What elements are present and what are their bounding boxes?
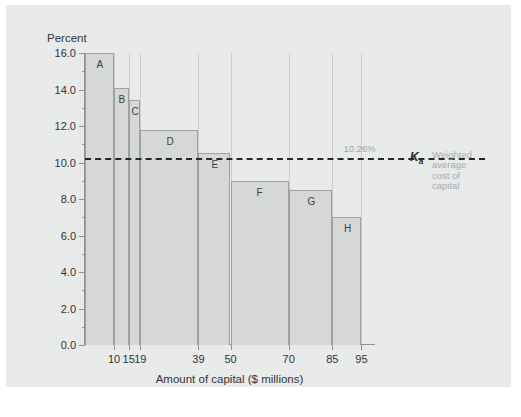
y-axis-tick-label: 4.0: [61, 266, 76, 278]
x-axis-tick-label: 10: [108, 353, 120, 365]
x-axis-tick-label: 50: [224, 353, 236, 365]
wacc-reference-line: [85, 158, 485, 160]
y-axis-tick-label: 14.0: [55, 84, 76, 96]
bar-label-e: E: [211, 159, 218, 170]
bar-h: [332, 217, 361, 345]
y-axis-title: Percent: [47, 32, 87, 44]
x-axis-tick-label: 19: [134, 353, 146, 365]
bar-b: [114, 88, 129, 345]
bar-a: [85, 53, 114, 345]
y-axis-tick-label: 6.0: [61, 230, 76, 242]
x-axis-tick-label: 15: [123, 353, 135, 365]
bar-label-f: F: [257, 187, 263, 198]
bar-label-b: B: [118, 94, 125, 105]
bar-label-h: H: [344, 223, 351, 234]
bar-f: [231, 181, 289, 345]
bar-label-c: C: [131, 106, 138, 117]
x-axis-tick-label: 39: [192, 353, 204, 365]
wacc-value-label: 10.26%: [343, 143, 375, 154]
x-axis-tick-label: 95: [355, 353, 367, 365]
bar-d: [140, 130, 198, 345]
wacc-symbol-label: Ka: [410, 150, 423, 166]
y-axis-tick-label: 10.0: [55, 157, 76, 169]
y-axis-tick-label: 8.0: [61, 193, 76, 205]
y-axis-tick-label: 12.0: [55, 120, 76, 132]
bar-c: [129, 100, 141, 345]
x-axis-tick: [361, 344, 362, 350]
y-axis-tick-label: 0.0: [61, 339, 76, 351]
plot-area: 0.02.04.06.08.010.012.014.016.0101519395…: [84, 53, 375, 345]
bar-label-g: G: [308, 196, 316, 207]
bar-label-d: D: [166, 136, 173, 147]
y-axis-tick-label: 16.0: [55, 47, 76, 59]
wacc-caption: Weighted average cost of capital: [432, 150, 472, 192]
x-axis-tick-label: 70: [283, 353, 295, 365]
bar-label-a: A: [97, 59, 104, 70]
x-axis-tick-label: 85: [326, 353, 338, 365]
x-axis-title: Amount of capital ($ millions): [84, 373, 375, 385]
y-axis-tick: [79, 345, 85, 346]
y-axis-tick-label: 2.0: [61, 303, 76, 315]
bar-e: [198, 153, 230, 345]
bar-separator: [361, 53, 362, 344]
figure-panel: Percent 0.02.04.06.08.010.012.014.016.01…: [6, 5, 511, 387]
bar-g: [289, 190, 333, 345]
